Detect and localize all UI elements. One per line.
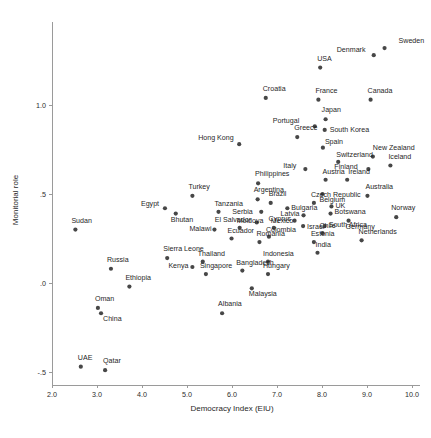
data-point-label: Botswana [335,208,366,216]
data-point-marker [315,251,319,255]
data-point: Spain [321,138,343,150]
data-point-marker [328,211,332,215]
data-point-marker [324,117,328,121]
data-point: Japan [322,106,341,121]
x-axis-tick-label: 4.0 [137,390,147,399]
data-point-marker [204,272,208,276]
data-point-marker [73,228,77,232]
data-point-marker [127,284,131,288]
data-point-label: Spain [325,138,343,146]
data-point: South Korea [323,126,370,134]
y-axis-tick-label: .5 [40,190,46,199]
data-point-label: Albania [218,300,242,308]
data-point-label: Bhutan [171,216,194,224]
data-point: India [315,241,331,255]
data-point: USA [317,55,332,70]
data-point-label: Moldova [237,217,264,225]
data-point-marker [256,197,260,201]
data-point-label: New Zealand [373,144,415,152]
data-point-label: Denmark [337,46,366,54]
x-axis-tick-label: 10.0 [405,390,419,399]
data-point: Denmark [337,46,376,57]
data-point-label: Greece [294,124,317,132]
data-point-marker [240,268,244,272]
x-axis-tick-label: 9.0 [362,390,372,399]
data-point-marker [190,194,194,198]
data-point-label: Egypt [141,200,159,208]
data-point-marker [318,66,322,70]
data-point-marker [256,181,260,185]
data-point-marker [382,46,386,50]
data-point-marker [190,265,194,269]
x-axis-tick-label: 3.0 [92,390,102,399]
data-point-marker [295,135,299,139]
data-point: Bhutan [171,211,194,223]
data-point-label: UAE [78,354,93,362]
data-point-label: Romania [256,230,284,238]
data-point: Botswana [328,208,365,216]
scatter-plot-canvas: 2.03.04.05.06.07.08.09.010.01.0.5.0-.5 S… [0,0,431,438]
data-point-marker [365,194,369,198]
data-point-marker [323,128,327,132]
data-point: Hong Kong [198,134,241,146]
data-point: Malaysia [249,286,277,298]
data-point-marker [372,53,376,57]
data-point-marker [360,238,364,242]
data-point-label: Malaysia [249,290,277,298]
data-point-marker [394,215,398,219]
data-point-marker [229,236,233,240]
data-point-label: Russia [107,256,129,264]
data-point: Qatar [103,357,121,372]
data-point: Iceland [388,153,411,168]
data-point: UAE [78,354,93,369]
data-point-label: Croatia [263,85,286,93]
data-point: Egypt [141,200,167,210]
data-point: Ethiopia [125,274,151,289]
x-axis-tick-label: 5.0 [182,390,192,399]
data-point-label: Turkey [188,183,210,191]
data-point-label: Kenya [168,262,188,270]
data-point-marker [259,210,263,214]
data-point: Ireland [345,168,370,182]
data-point-marker [212,228,216,232]
data-point-label: South Korea [330,126,369,134]
data-point-marker [216,210,220,214]
data-point-marker [220,311,224,315]
data-point: Russia [107,256,129,271]
data-point: Oman [95,295,114,310]
data-point-label: Chile [319,222,335,230]
data-points-group: SwedenDenmarkUSACroatiaFranceCanadaJapan… [71,37,424,372]
y-axis-tick-label: .0 [40,279,46,288]
data-point-label: Ireland [348,168,370,176]
data-point-label: USA [317,55,332,63]
data-point-label: Estonia [311,230,335,238]
data-point-marker [301,224,305,228]
x-axis-title: Democracy Index (EIU) [190,404,273,413]
data-point: Sweden [382,37,424,50]
data-point: Netherlands [359,228,398,242]
data-point-label: Sweden [399,37,425,45]
data-point-label: Norway [391,204,415,212]
data-point-label: Thailand [198,250,225,258]
x-axis-tick-label: 8.0 [317,390,327,399]
data-point: Greece [294,124,317,139]
data-point-label: Ethiopia [125,274,151,282]
data-point: Sudan [71,217,92,232]
data-point-marker [324,178,328,182]
data-point: Romania [256,230,284,244]
data-point-label: Canada [368,87,393,95]
data-point: Croatia [263,85,286,100]
data-point-label: Philippines [255,170,290,178]
data-point-marker [109,267,113,271]
data-point-marker [165,256,169,260]
data-point-label: France [315,87,337,95]
data-point-label: Sudan [71,217,92,225]
x-axis-tick-label: 2.0 [47,390,57,399]
data-point: Norway [391,204,415,219]
data-point-label: Oman [95,295,114,303]
data-point-label: Austria [323,168,345,176]
data-point-label: India [316,241,331,249]
y-axis-tick-label: -.5 [38,368,46,377]
y-axis-title: Monitorial role [11,174,20,225]
data-point: France [315,87,337,102]
